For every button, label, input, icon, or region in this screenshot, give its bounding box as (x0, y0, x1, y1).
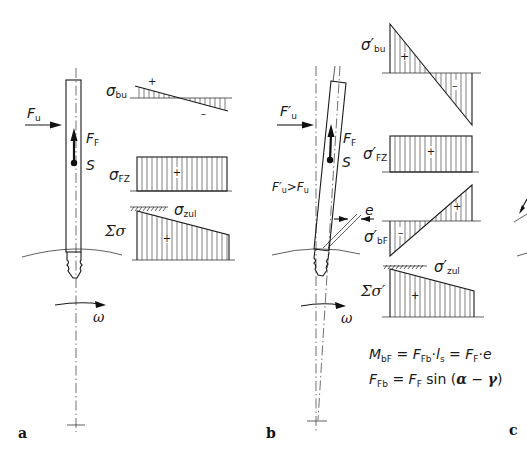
sign-positive: + (148, 76, 156, 87)
centrifugal-force-label-a: FF (86, 130, 99, 148)
force-fu-prime-label: F′u (280, 103, 297, 121)
sign-positive: + (427, 146, 435, 157)
diagram-sum-sigma-a: σzul + Σσ (104, 201, 235, 260)
panel-label-c: c (509, 422, 518, 438)
diagram-sigma-bu-prime-b: + – σ′bu (361, 24, 481, 125)
center-of-mass-dot-a (71, 160, 77, 166)
diagram-sigma-bu-a: + – σbu (106, 76, 232, 119)
force-comparison-label: F′u>Fu (272, 180, 309, 195)
arrowhead-icon (50, 122, 62, 129)
centrifugal-force-arrow-b (330, 135, 331, 160)
sigma-fz-prime-label: σ′FZ (363, 145, 387, 163)
eccentricity-label: e (365, 202, 374, 218)
blade-axis-b-ext (333, 66, 335, 82)
rotation-arrow-b (301, 304, 340, 306)
blade-root-a (67, 252, 82, 278)
equation-bending-force: FFb = FF sin (α − γ) (369, 371, 502, 389)
arrowhead-icon (328, 124, 335, 137)
panel-c: c (509, 199, 527, 438)
sign-positive: + (453, 201, 461, 212)
center-of-mass-label-b: S (342, 154, 351, 170)
sign-positive: + (411, 290, 419, 301)
sigma-fz-label-a: σFZ (109, 166, 130, 184)
sigma-zul-label-a: σzul (174, 201, 196, 219)
sign-positive: + (163, 233, 171, 244)
hub-line-c (517, 253, 527, 256)
sign-negative: – (398, 226, 404, 239)
sign-positive: + (400, 50, 409, 63)
hub-arc-a (22, 249, 122, 257)
sum-sigma-prime-label: Σσ′ (360, 282, 386, 300)
diagram-sigma-bf-prime-b: – + σ′bF (364, 185, 481, 256)
blade-axis-b (318, 66, 340, 420)
rotation-arrow-a (55, 303, 100, 305)
arrowhead-icon (339, 216, 348, 222)
hub-arc-c (514, 214, 527, 222)
diagram-sum-sigma-prime-b: σ′zul + Σσ′ (360, 258, 484, 317)
sign-positive: + (173, 167, 181, 178)
sum-sigma-label-a: Σσ (104, 222, 127, 240)
center-of-mass-label-a: S (86, 157, 95, 173)
diagram-sigma-fz-a: + σFZ (109, 157, 232, 191)
arrowhead-icon (519, 205, 525, 214)
arrowhead-icon (71, 128, 78, 141)
sigma-bu-prime-label: σ′bu (361, 36, 385, 54)
center-of-mass-dot-b (327, 157, 333, 163)
omega-label-b: ω (341, 310, 353, 326)
centrifugal-force-label-b: FF (343, 130, 356, 148)
omega-label-a: ω (93, 309, 105, 325)
sign-negative: – (452, 79, 458, 92)
sign-negative: – (201, 108, 206, 119)
sigma-bf-prime-label: σ′bF (364, 228, 388, 246)
force-fu-label-a: Fu (27, 105, 41, 123)
equation-bending-moment: MbF = FFb·ls = FF·e (369, 346, 492, 364)
panel-label-a: a (18, 425, 27, 441)
panel-b: e F′u FF S F′u>Fu ω + (266, 24, 502, 441)
sigma-zul-prime-label: σ′zul (434, 258, 460, 276)
arrowhead-icon (95, 301, 106, 308)
arrowhead-icon (302, 122, 314, 129)
panel-label-b: b (266, 425, 276, 441)
diagram-sigma-fz-prime-b: + σ′FZ (363, 136, 479, 172)
arrowhead-icon (335, 302, 346, 309)
sigma-bu-label-a: σbu (106, 82, 127, 100)
blade-stress-figure: Fu FF S ω + – σbu (0, 0, 527, 462)
panel-a: Fu FF S ω + – σbu (18, 68, 235, 441)
